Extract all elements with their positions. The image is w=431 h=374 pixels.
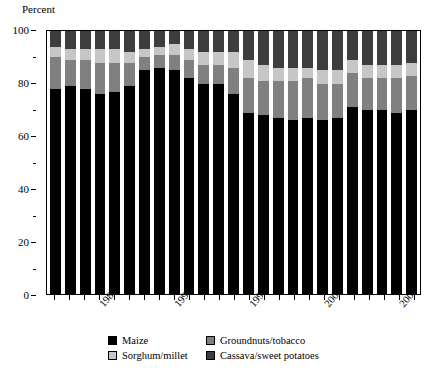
y-tick-label-60: 60 (18, 131, 29, 142)
segment-maize (377, 110, 388, 294)
bar-2001 (332, 31, 343, 294)
legend-item-maize: Maize (108, 333, 204, 348)
segment-sorghum-millet (228, 52, 239, 68)
segment-maize (50, 89, 61, 294)
segment-groundnuts-tobacco (95, 63, 106, 95)
segment-maize (273, 118, 284, 294)
segment-sorghum-millet (213, 52, 224, 65)
segment-sorghum-millet (95, 49, 106, 62)
segment-groundnuts-tobacco (317, 84, 328, 121)
segment-maize (332, 118, 343, 294)
segment-cassava-sweet-potatoes (302, 31, 313, 68)
y-tick-100 (31, 30, 36, 31)
segment-cassava-sweet-potatoes (332, 31, 343, 70)
segment-cassava-sweet-potatoes (258, 31, 269, 65)
segment-maize (347, 107, 358, 294)
segment-sorghum-millet (154, 47, 165, 55)
plot-area (46, 30, 421, 295)
segment-cassava-sweet-potatoes (377, 31, 388, 65)
y-tick-label-20: 20 (18, 237, 29, 248)
segment-groundnuts-tobacco (184, 60, 195, 78)
y-tick-30 (33, 216, 36, 217)
legend-swatch-groundnuts-icon (206, 336, 215, 345)
segment-cassava-sweet-potatoes (109, 31, 120, 49)
bar-1990 (169, 31, 180, 294)
x-tick-1989 (159, 295, 160, 300)
segment-groundnuts-tobacco (243, 78, 254, 112)
segment-sorghum-millet (258, 65, 269, 81)
segment-cassava-sweet-potatoes (347, 31, 358, 60)
segment-maize (124, 86, 135, 294)
segment-cassava-sweet-potatoes (198, 31, 209, 52)
segment-maize (288, 120, 299, 294)
segment-sorghum-millet (80, 49, 91, 60)
segment-cassava-sweet-potatoes (228, 31, 239, 52)
segment-sorghum-millet (273, 68, 284, 81)
segment-cassava-sweet-potatoes (317, 31, 328, 70)
legend-item-groundnuts: Groundnuts/tobacco (206, 333, 368, 348)
x-tick-2002 (354, 295, 355, 300)
segment-maize (258, 115, 269, 294)
segment-cassava-sweet-potatoes (243, 31, 254, 60)
y-tick-90 (33, 57, 36, 58)
y-tick-label-40: 40 (18, 184, 29, 195)
segment-sorghum-millet (139, 49, 150, 57)
bar-1997 (273, 31, 284, 294)
segment-groundnuts-tobacco (406, 76, 417, 110)
bar-1993 (213, 31, 224, 294)
segment-sorghum-millet (184, 49, 195, 60)
segment-cassava-sweet-potatoes (65, 31, 76, 49)
segment-groundnuts-tobacco (258, 81, 269, 115)
segment-sorghum-millet (362, 65, 373, 78)
x-tick-1997 (279, 295, 280, 300)
segment-cassava-sweet-potatoes (139, 31, 150, 49)
bar-1994 (228, 31, 239, 294)
segment-maize (184, 78, 195, 294)
segment-groundnuts-tobacco (154, 55, 165, 68)
segment-groundnuts-tobacco (65, 60, 76, 86)
x-tick-2004 (384, 295, 385, 300)
x-tick-2006 (414, 295, 415, 300)
segment-sorghum-millet (391, 65, 402, 78)
y-tick-60 (31, 136, 36, 137)
bar-1989 (154, 31, 165, 294)
segment-sorghum-millet (198, 52, 209, 65)
bar-1988 (139, 31, 150, 294)
segment-maize (169, 70, 180, 294)
segment-cassava-sweet-potatoes (124, 31, 135, 52)
segment-cassava-sweet-potatoes (362, 31, 373, 65)
segment-cassava-sweet-potatoes (154, 31, 165, 47)
legend-label-maize: Maize (122, 335, 148, 346)
bar-1996 (258, 31, 269, 294)
bar-1986 (109, 31, 120, 294)
bar-1991 (184, 31, 195, 294)
bar-1999 (302, 31, 313, 294)
chart-legend: MaizeGroundnuts/tobaccoSorghum/milletCas… (108, 333, 368, 363)
x-tick-1999 (309, 295, 310, 300)
segment-sorghum-millet (302, 68, 313, 79)
segment-cassava-sweet-potatoes (50, 31, 61, 47)
y-tick-80 (31, 83, 36, 84)
bar-2004 (377, 31, 388, 294)
legend-item-sorghum: Sorghum/millet (108, 348, 204, 363)
x-tick-2003 (369, 295, 370, 300)
y-tick-10 (33, 269, 36, 270)
segment-maize (228, 94, 239, 294)
segment-cassava-sweet-potatoes (273, 31, 284, 68)
bar-1985 (95, 31, 106, 294)
segment-cassava-sweet-potatoes (213, 31, 224, 52)
segment-cassava-sweet-potatoes (95, 31, 106, 49)
x-tick-1987 (129, 295, 130, 300)
segment-groundnuts-tobacco (273, 81, 284, 118)
x-tick-1994 (234, 295, 235, 300)
legend-label-groundnuts: Groundnuts/tobacco (220, 335, 305, 346)
x-tick-1984 (84, 295, 85, 300)
segment-groundnuts-tobacco (139, 57, 150, 70)
segment-maize (65, 86, 76, 294)
segment-cassava-sweet-potatoes (288, 31, 299, 68)
y-tick-label-80: 80 (18, 78, 29, 89)
segment-groundnuts-tobacco (213, 65, 224, 83)
segment-maize (80, 89, 91, 294)
segment-groundnuts-tobacco (347, 73, 358, 107)
segment-groundnuts-tobacco (109, 63, 120, 92)
